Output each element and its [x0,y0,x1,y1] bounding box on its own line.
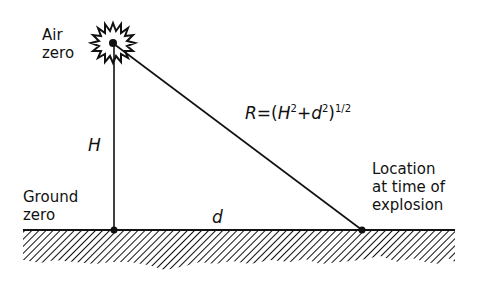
air-zero-line2: zero [42,44,74,62]
formula-open-paren: ( [271,103,278,123]
location-line1: Location [372,160,445,178]
slant-range-line [114,44,362,230]
location-line3: explosion [372,196,445,214]
formula-H: H [278,103,291,123]
ground-zero-point [111,227,118,234]
formula-d: d [311,103,322,123]
location-line2: at time of [372,178,445,196]
burst-icon [91,23,135,63]
formula-equals: = [257,103,271,123]
height-symbol: H [88,136,101,154]
slant-range-diagram: Air zero Ground zero Location at time of… [0,0,486,287]
ground-zero-line1: Ground [23,188,78,206]
location-label: Location at time of explosion [372,160,445,214]
ground-hatching [20,230,460,275]
slant-range-formula: R=(H2+d2)1/2 [245,103,351,123]
formula-plus: + [297,103,311,123]
air-zero-line1: Air [42,26,74,44]
location-point [359,227,366,234]
formula-R: R [245,103,257,123]
air-zero-label: Air zero [42,26,74,62]
ground-zero-line2: zero [23,206,78,224]
formula-outer-exponent: 1/2 [335,103,351,114]
distance-symbol: d [212,208,223,226]
ground-zero-label: Ground zero [23,188,78,224]
formula-close-paren: ) [328,103,335,123]
